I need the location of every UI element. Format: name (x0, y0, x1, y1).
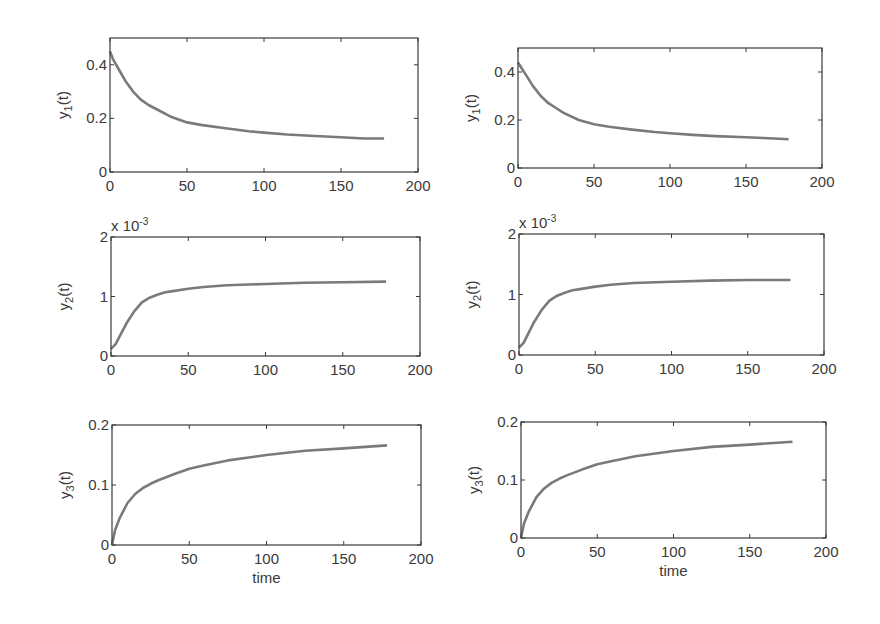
y-axis-label: y1(t) (54, 91, 74, 119)
y-tick-label: 0.2 (86, 109, 107, 126)
y-tick-label: 0 (101, 536, 109, 553)
x-tick-label: 0 (108, 550, 116, 567)
subplot-left-y1: 05010015020000.20.4y1(t) (54, 38, 431, 194)
y-tick-label: 0.1 (497, 471, 518, 488)
y-tick-label: 0 (507, 159, 515, 176)
axes-frame (521, 422, 826, 538)
exponent-label: x 10-3 (111, 216, 149, 234)
axes-frame (519, 234, 824, 355)
y-tick-label: 0.2 (497, 413, 518, 430)
series-line-y3 (112, 445, 387, 545)
axes-frame (112, 425, 421, 545)
x-tick-label: 50 (179, 177, 196, 194)
y-axis-label: y1(t) (462, 94, 482, 122)
y-tick-label: 0.2 (494, 111, 515, 128)
y-tick-label: 0 (100, 347, 108, 364)
x-tick-label: 0 (517, 543, 525, 560)
x-tick-label: 150 (735, 360, 760, 377)
x-tick-label: 150 (733, 173, 758, 190)
x-tick-label: 200 (407, 361, 432, 378)
x-tick-label: 150 (328, 177, 353, 194)
y-tick-label: 2 (100, 228, 108, 245)
figure-canvas: 05010015020000.20.4y1(t)05010015020000.2… (0, 0, 880, 624)
x-tick-label: 100 (657, 173, 682, 190)
subplot-right-y1: 05010015020000.20.4y1(t) (462, 48, 835, 190)
x-tick-label: 100 (659, 360, 684, 377)
y-tick-label: 0.1 (88, 476, 109, 493)
x-tick-label: 200 (405, 177, 430, 194)
subplot-left-y3: 05010015020000.10.2y3(t)time (56, 416, 434, 586)
x-tick-label: 200 (408, 550, 433, 567)
x-tick-label: 200 (809, 173, 834, 190)
y-tick-label: 2 (508, 225, 516, 242)
x-tick-label: 100 (251, 177, 276, 194)
x-tick-label: 150 (737, 543, 762, 560)
x-tick-label: 50 (586, 173, 603, 190)
y-axis-label: y3(t) (56, 471, 76, 499)
x-tick-label: 100 (254, 550, 279, 567)
x-axis-label: time (659, 562, 687, 579)
y-tick-label: 0 (99, 163, 107, 180)
y-tick-label: 0.2 (88, 416, 109, 433)
axes-frame (518, 48, 822, 168)
y-tick-label: 0 (508, 346, 516, 363)
y-tick-label: 1 (508, 286, 516, 303)
x-axis-label: time (252, 569, 280, 586)
axes-frame (110, 38, 418, 172)
y-axis-label: y3(t) (465, 466, 485, 494)
x-tick-label: 50 (181, 550, 198, 567)
x-tick-label: 100 (253, 361, 278, 378)
y-tick-label: 1 (100, 288, 108, 305)
subplot-right-y3: 05010015020000.10.2y3(t)time (465, 413, 839, 579)
x-tick-label: 150 (330, 361, 355, 378)
y-tick-label: 0 (510, 529, 518, 546)
subplot-right-y2: 050100150200012x 10-3y2(t) (463, 213, 837, 377)
x-tick-label: 0 (515, 360, 523, 377)
axes-frame (111, 237, 420, 356)
x-tick-label: 0 (514, 173, 522, 190)
series-line-y2 (519, 280, 791, 348)
x-tick-label: 200 (811, 360, 836, 377)
y-tick-label: 0.4 (494, 63, 515, 80)
x-tick-label: 50 (589, 543, 606, 560)
x-tick-label: 100 (661, 543, 686, 560)
exponent-label: x 10-3 (519, 213, 557, 231)
x-tick-label: 50 (587, 360, 604, 377)
x-tick-label: 0 (107, 361, 115, 378)
series-line-y1 (110, 51, 384, 138)
x-tick-label: 0 (106, 177, 114, 194)
subplot-left-y2: 050100150200012x 10-3y2(t) (55, 216, 433, 378)
x-tick-label: 200 (813, 543, 838, 560)
x-tick-label: 150 (331, 550, 356, 567)
series-line-y3 (521, 442, 793, 538)
y-axis-label: y2(t) (55, 283, 75, 311)
y-axis-label: y2(t) (463, 281, 483, 309)
series-line-y2 (111, 282, 386, 349)
y-tick-label: 0.4 (86, 56, 107, 73)
series-line-y1 (518, 62, 789, 139)
x-tick-label: 50 (180, 361, 197, 378)
